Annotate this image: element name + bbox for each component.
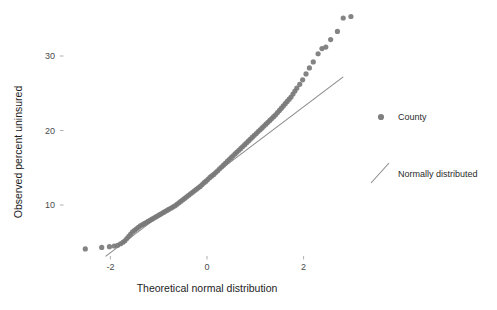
data-point bbox=[348, 14, 353, 19]
legend-label-normal: Normally distributed bbox=[398, 169, 478, 179]
data-point bbox=[300, 77, 305, 82]
x-axis-title: Theoretical normal distribution bbox=[137, 282, 278, 294]
y-axis-title: Observed percent uninsured bbox=[12, 86, 24, 219]
legend-label-county: County bbox=[398, 112, 427, 122]
data-point bbox=[307, 65, 312, 70]
legend-county-marker-icon bbox=[378, 114, 384, 120]
data-point bbox=[341, 15, 346, 20]
data-point bbox=[303, 71, 308, 76]
legend-line-marker-icon bbox=[371, 163, 389, 183]
plot-canvas: -202102030 Observed percent uninsured Th… bbox=[0, 0, 497, 310]
legend: County Normally distributed bbox=[371, 112, 478, 183]
y-tick-label: 30 bbox=[45, 51, 55, 61]
x-tick-label: -2 bbox=[106, 262, 114, 272]
data-point bbox=[99, 245, 104, 250]
x-tick-label: 2 bbox=[301, 262, 306, 272]
data-point bbox=[315, 51, 320, 56]
data-point bbox=[311, 59, 316, 64]
data-point bbox=[297, 82, 302, 87]
tick-labels: -202102030 bbox=[45, 51, 306, 272]
data-point bbox=[328, 37, 333, 42]
x-tick-label: 0 bbox=[204, 262, 209, 272]
qq-plot-figure: -202102030 Observed percent uninsured Th… bbox=[0, 0, 497, 310]
y-tick-label: 20 bbox=[45, 126, 55, 136]
county-scatter-points bbox=[83, 14, 354, 252]
data-point bbox=[323, 44, 328, 49]
data-point bbox=[83, 246, 88, 251]
data-point bbox=[107, 244, 112, 249]
y-tick-label: 10 bbox=[45, 200, 55, 210]
data-point bbox=[335, 29, 340, 34]
axes bbox=[60, 56, 304, 260]
